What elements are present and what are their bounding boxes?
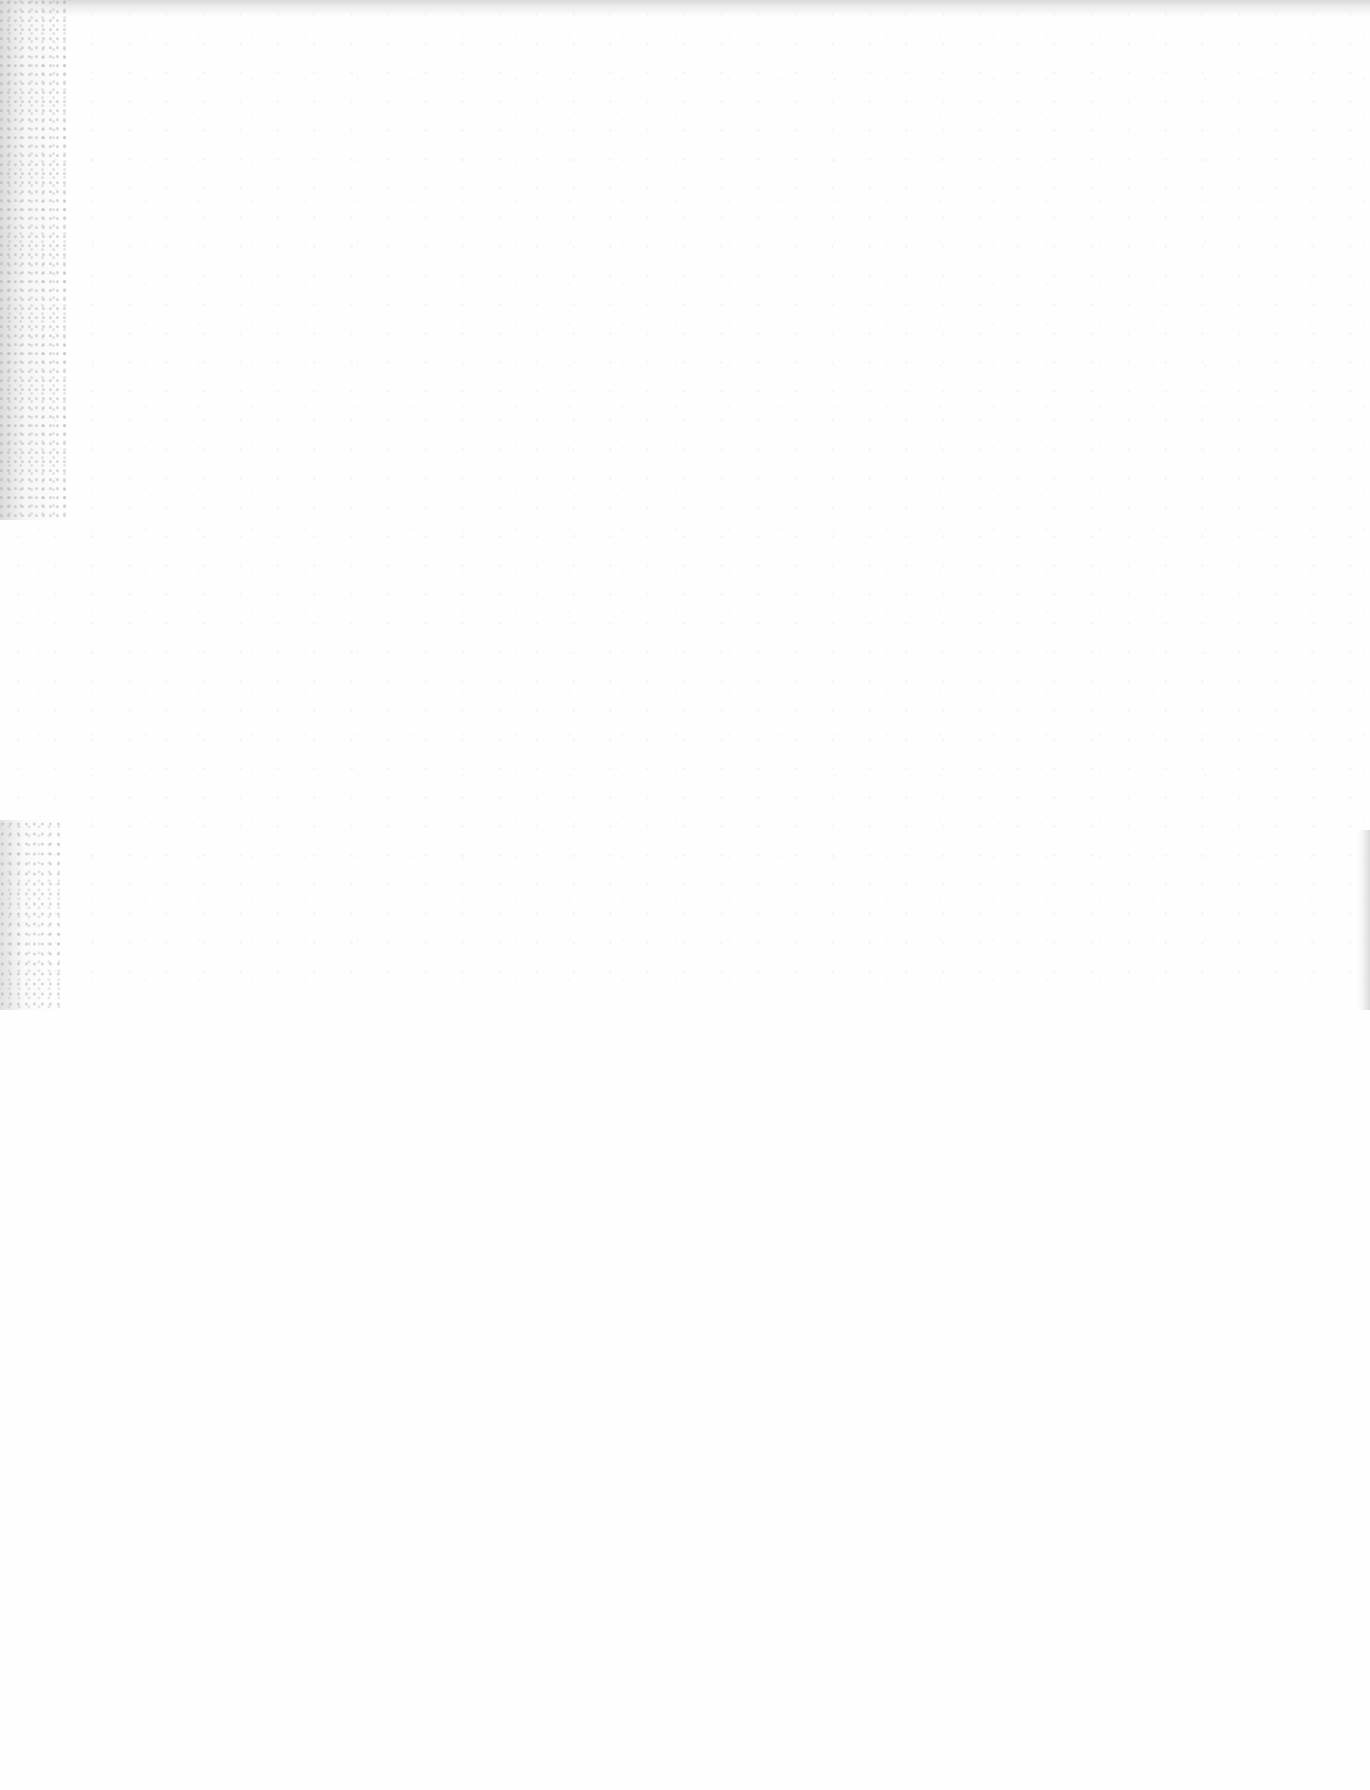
blank-scanned-page xyxy=(0,0,1370,1790)
scan-speckle-noise xyxy=(0,0,1370,1000)
scan-left-margin-noise-lower xyxy=(0,820,60,1010)
scan-left-margin-noise-upper xyxy=(0,0,70,520)
scan-top-edge xyxy=(0,0,1370,16)
scan-right-edge-strip xyxy=(1356,830,1370,1010)
